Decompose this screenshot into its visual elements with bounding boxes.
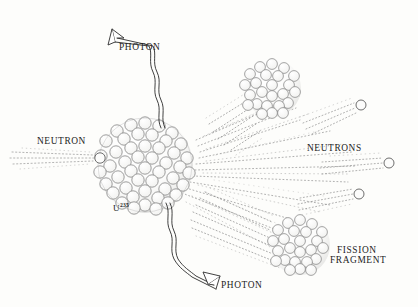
fission-diagram: PHOTON PHOTON NEUTRON NEUTRONS FISSION F… [0, 0, 418, 307]
label-fission-fragment: FISSION FRAGMENT [330, 246, 386, 265]
label-fission-fragment-line2: FRAGMENT [330, 256, 386, 266]
emitted-neutron-2 [384, 158, 394, 168]
label-neutrons: NEUTRONS [307, 144, 362, 154]
incident-neutron [95, 153, 105, 163]
label-photon-bottom: PHOTON [221, 281, 262, 291]
label-neutron: NEUTRON [37, 137, 86, 147]
label-photon-top: PHOTON [119, 43, 160, 53]
emitted-neutron-1 [356, 100, 366, 110]
emitted-neutron-3 [354, 189, 364, 199]
uranium-mass-number: 235 [120, 202, 129, 208]
label-uranium-235: U235 [113, 203, 129, 213]
